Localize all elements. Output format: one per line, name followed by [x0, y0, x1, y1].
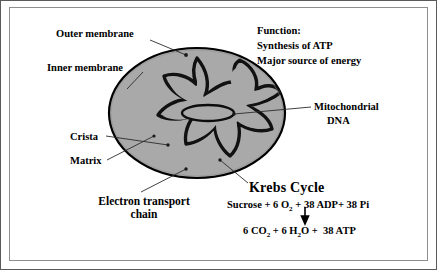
- krebs-cycle-title: Krebs Cycle: [249, 180, 324, 196]
- label-mitochondrial-dna: Mitochondrial DNA: [314, 100, 414, 128]
- function-line-2: Major source of energy: [257, 54, 361, 69]
- label-electron-transport-chain: Electron transport chain: [84, 195, 204, 221]
- endpoint-mtdna: [232, 112, 235, 115]
- label-matrix: Matrix: [70, 155, 102, 167]
- function-heading: Function:: [257, 24, 361, 39]
- figure-canvas: Outer membrane Inner membrane Crista Mat…: [0, 0, 437, 270]
- endpoint-crista: [166, 143, 169, 146]
- mitochondrion-illustration: [0, 0, 437, 270]
- function-text-block: Function: Synthesis of ATP Major source …: [257, 24, 361, 69]
- function-line-1: Synthesis of ATP: [257, 39, 361, 54]
- endpoint-krebs: [218, 158, 221, 161]
- label-crista: Crista: [70, 131, 98, 143]
- mtdna-line-2: DNA: [314, 114, 414, 128]
- krebs-reactants-equation: Sucrose + 6 O2 + 38 ADP+ 38 Pi: [227, 199, 369, 213]
- endpoint-matrix: [152, 134, 155, 137]
- endpoint-outer-membrane: [184, 53, 188, 57]
- mtdna-line-1: Mitochondrial: [314, 101, 379, 112]
- etc-line-1: Electron transport: [98, 195, 189, 207]
- label-inner-membrane: Inner membrane: [47, 62, 123, 74]
- endpoint-etc: [184, 167, 187, 170]
- etc-line-2: chain: [131, 208, 158, 220]
- label-outer-membrane: Outer membrane: [56, 28, 134, 40]
- krebs-products-equation: 6 CO2 + 6 H2O + 38 ATP: [243, 225, 356, 239]
- mitochondrial-dna-shape: [182, 105, 234, 121]
